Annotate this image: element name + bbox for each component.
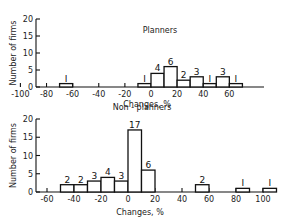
histogram-bar bbox=[88, 181, 102, 192]
histogram-bar bbox=[196, 185, 210, 192]
bar-value-label: 2 bbox=[181, 70, 187, 80]
y-tick-label: 20 bbox=[23, 115, 33, 124]
bar-value-label: 2 bbox=[64, 175, 70, 185]
bar-value-label: 2 bbox=[199, 175, 205, 185]
non-planners-chart: 05101520-60-40-20020406080100223431762II… bbox=[9, 103, 277, 217]
bar-value-label: 17 bbox=[129, 120, 140, 130]
bar-value-label: I bbox=[235, 74, 238, 84]
histogram-bar bbox=[190, 77, 203, 87]
y-tick-label: 10 bbox=[23, 152, 33, 161]
histogram-bar bbox=[216, 77, 229, 87]
x-tick-label: 40 bbox=[177, 195, 187, 204]
histogram-bar bbox=[60, 84, 73, 87]
histogram-bar bbox=[203, 84, 216, 87]
y-tick-label: 15 bbox=[23, 133, 33, 142]
x-tick-label: -80 bbox=[40, 90, 53, 99]
y-tick-label: 5 bbox=[28, 170, 33, 179]
planners-chart: 05101520-100-80-60-40-200204060II4623I3I… bbox=[9, 15, 264, 109]
y-tick-label: 0 bbox=[28, 188, 33, 197]
y-axis-label: Number of firms bbox=[9, 20, 18, 85]
histogram-bar bbox=[229, 84, 242, 87]
bar-value-label: I bbox=[241, 178, 244, 188]
x-tick-label: 20 bbox=[172, 90, 182, 99]
histogram-bar bbox=[151, 73, 164, 87]
y-axis-label: Number of firms bbox=[9, 123, 18, 188]
histogram-bar bbox=[164, 67, 177, 87]
x-tick-label: 100 bbox=[255, 195, 270, 204]
histogram-bar bbox=[74, 185, 88, 192]
bar-value-label: 3 bbox=[118, 171, 124, 181]
histogram-bar bbox=[177, 80, 190, 87]
bar-value-label: 2 bbox=[78, 175, 84, 185]
x-tick-label: 60 bbox=[224, 90, 234, 99]
x-tick-label: 60 bbox=[204, 195, 214, 204]
bar-value-label: 4 bbox=[105, 167, 111, 177]
histogram-bar bbox=[128, 130, 142, 192]
histogram-bar bbox=[236, 188, 250, 192]
y-tick-label: 5 bbox=[28, 66, 33, 75]
histogram-bar bbox=[61, 185, 75, 192]
x-axis-label: Changes, % bbox=[116, 208, 164, 217]
x-tick-label: -40 bbox=[92, 90, 105, 99]
x-tick-label: 0 bbox=[148, 90, 153, 99]
y-tick-label: 20 bbox=[23, 15, 33, 24]
bar-value-label: 4 bbox=[155, 63, 161, 73]
x-tick-label: -60 bbox=[40, 195, 53, 204]
histogram-bar bbox=[138, 84, 151, 87]
x-tick-label: 20 bbox=[150, 195, 160, 204]
bar-value-label: I bbox=[208, 74, 211, 84]
bar-value-label: 6 bbox=[145, 160, 151, 170]
histogram-bar bbox=[142, 170, 156, 192]
bar-value-label: I bbox=[143, 74, 146, 84]
histogram-bar bbox=[115, 181, 129, 192]
bar-value-label: I bbox=[268, 178, 271, 188]
chart-title: Planners bbox=[143, 26, 177, 35]
y-tick-label: 10 bbox=[23, 49, 33, 58]
histogram-bar bbox=[263, 188, 277, 192]
histogram-bar bbox=[101, 177, 115, 192]
x-tick-label: -40 bbox=[67, 195, 80, 204]
x-tick-label: 80 bbox=[231, 195, 241, 204]
y-tick-label: 15 bbox=[23, 32, 33, 41]
bar-value-label: 6 bbox=[168, 57, 174, 67]
bar-value-label: 3 bbox=[194, 67, 200, 77]
bar-value-label: 3 bbox=[91, 171, 97, 181]
bar-value-label: 3 bbox=[220, 67, 226, 77]
bar-value-label: I bbox=[65, 74, 68, 84]
chart-title: Non - planners bbox=[113, 103, 172, 112]
histogram-figure: 05101520-100-80-60-40-200204060II4623I3I… bbox=[0, 0, 284, 224]
x-tick-label: 0 bbox=[125, 195, 130, 204]
x-tick-label: -20 bbox=[94, 195, 107, 204]
x-tick-label: -60 bbox=[66, 90, 79, 99]
x-tick-label: -20 bbox=[118, 90, 131, 99]
x-tick-label: -100 bbox=[11, 90, 29, 99]
x-tick-label: 40 bbox=[198, 90, 208, 99]
